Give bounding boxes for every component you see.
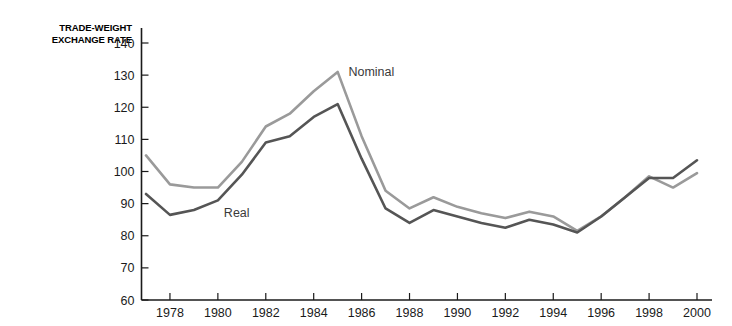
x-tick-label: 1998 bbox=[635, 306, 663, 320]
y-tick-label: 140 bbox=[114, 37, 135, 51]
y-tick-label: 90 bbox=[121, 197, 135, 211]
y-tick-label: 70 bbox=[121, 261, 135, 275]
y-tick-label: 60 bbox=[121, 294, 135, 308]
y-tick-label: 100 bbox=[114, 165, 135, 179]
series-annotations-group: NominalReal bbox=[224, 65, 394, 220]
y-tick-label: 120 bbox=[114, 101, 135, 115]
x-tick-label: 1978 bbox=[156, 306, 184, 320]
x-tick-label: 1994 bbox=[539, 306, 567, 320]
x-tick-label: 1986 bbox=[348, 306, 376, 320]
x-tick-label: 1988 bbox=[396, 306, 424, 320]
chart-container: TRADE-WEIGHT EXCHANGE RATE 6070809010011… bbox=[0, 0, 732, 326]
y-tick-label: 130 bbox=[114, 69, 135, 83]
x-tick-label: 1992 bbox=[491, 306, 519, 320]
y-axis-ticks: 60708090100110120130140 bbox=[114, 37, 149, 308]
y-tick-label: 110 bbox=[115, 133, 135, 147]
series-annotation-nominal: Nominal bbox=[348, 65, 394, 79]
series-annotation-real: Real bbox=[224, 206, 250, 220]
x-tick-label: 1996 bbox=[587, 306, 615, 320]
x-tick-label: 1982 bbox=[252, 306, 280, 320]
y-tick-label: 80 bbox=[121, 229, 135, 243]
x-tick-label: 2000 bbox=[683, 306, 711, 320]
line-chart-plot: 60708090100110120130140 1978198019821984… bbox=[0, 0, 732, 326]
x-tick-label: 1984 bbox=[300, 306, 328, 320]
x-tick-label: 1980 bbox=[204, 306, 232, 320]
x-tick-label: 1990 bbox=[444, 306, 472, 320]
x-axis-ticks: 1978198019821984198619881990199219941996… bbox=[156, 293, 711, 320]
